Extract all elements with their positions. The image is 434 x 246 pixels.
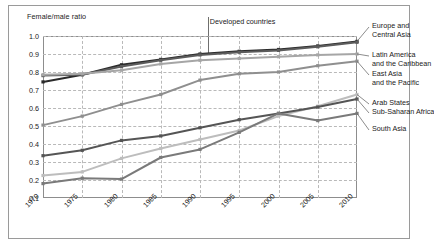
series-marker [120,178,123,181]
series-lines [43,36,357,198]
series-marker [316,45,319,48]
series-marker [41,154,44,157]
series-marker [120,69,123,72]
series-marker [316,53,319,56]
series-marker [355,60,358,63]
annotation-developed-countries: Developed countries [210,17,276,26]
series-marker [120,103,123,106]
series-marker [198,53,201,56]
y-tick-label: 1.0 [29,32,39,41]
y-tick-label: 0.9 [29,50,39,59]
series-marker [277,55,280,58]
series-line [43,95,357,176]
y-axis-caption: Female/male ratio [27,12,86,21]
series-marker [238,131,241,134]
series-marker [81,177,84,180]
series-marker [238,57,241,60]
series-marker [355,52,358,55]
plot-area: 0.10.20.30.40.50.60.70.80.91.0 197019751… [43,36,357,198]
legend-label: East Asiaand the Pacific [372,70,419,87]
series-marker [81,72,84,75]
series-marker [159,147,162,150]
legend-label-line: South Asia [372,125,406,134]
series-marker [198,138,201,141]
series-marker [159,93,162,96]
series-marker [159,62,162,65]
series-marker [159,134,162,137]
series-marker [355,93,358,96]
y-tick-label: 0.8 [29,68,39,77]
series-line [43,61,357,125]
series-marker [198,59,201,62]
series-marker [277,70,280,73]
series-marker [120,65,123,68]
legend-label: Europe andCentral Asia [372,22,411,39]
series-marker [41,124,44,127]
series-marker [41,80,44,83]
series-marker [41,174,44,177]
legend-label-line: and the Pacific [372,79,419,88]
series-marker [238,51,241,54]
y-tick-label: 0.4 [29,140,39,149]
series-marker [41,73,44,76]
y-tick-label: 0.3 [29,158,39,167]
y-tick-label: 0.6 [29,104,39,113]
series-marker [238,72,241,75]
series-marker [355,97,358,100]
series-marker [316,106,319,109]
y-tick-label: 0.2 [29,176,39,185]
legend-label-line: Central Asia [372,31,411,40]
series-marker [316,64,319,67]
legend-label: Sub-Saharan Africa [372,108,434,117]
legend-label: Latin Americaand the Caribbean [372,51,431,68]
series-marker [41,182,44,185]
series-marker [81,115,84,118]
series-marker [81,170,84,173]
legend-label-line: and the Caribbean [372,60,431,69]
series-marker [120,157,123,160]
series-marker [198,126,201,129]
series-line [43,54,357,75]
series-marker [159,59,162,62]
series-marker [81,149,84,152]
legend-label-line: Sub-Saharan Africa [372,108,434,117]
series-marker [120,139,123,142]
series-marker [238,118,241,121]
series-marker [355,112,358,115]
series-marker [355,41,358,44]
series-marker [159,156,162,159]
series-marker [277,112,280,115]
series-marker [198,148,201,151]
y-tick-label: 0.5 [29,122,39,131]
legend-label: South Asia [372,125,406,134]
series-marker [316,119,319,122]
series-marker [198,79,201,82]
y-tick-label: 0.7 [29,86,39,95]
series-marker [277,49,280,52]
